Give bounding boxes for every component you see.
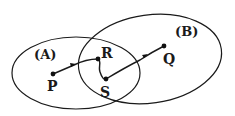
point-r-dot xyxy=(96,57,101,62)
point-q-dot xyxy=(162,44,167,49)
path-segment-s-q xyxy=(106,46,164,79)
point-r-label: R xyxy=(101,45,113,61)
point-q-label: Q xyxy=(163,51,175,67)
path-segment-r-s xyxy=(98,59,106,79)
point-s-label: S xyxy=(100,84,110,100)
point-s-dot xyxy=(104,77,109,82)
set-a-ellipse xyxy=(12,37,140,109)
path-segment-p-r xyxy=(53,59,98,74)
point-p-label: P xyxy=(47,78,58,94)
set-b-label: (B) xyxy=(175,24,198,39)
set-a-label: (A) xyxy=(34,47,56,62)
set-path-diagram: (A) (B) P R S Q xyxy=(0,0,235,116)
point-p-dot xyxy=(51,72,56,77)
